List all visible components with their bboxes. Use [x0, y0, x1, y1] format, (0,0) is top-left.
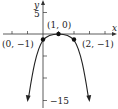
point-2-neg1	[72, 37, 76, 41]
y-tick-label-neg15: −15	[50, 96, 69, 106]
point-label-0-neg1: (0, −1)	[2, 39, 34, 49]
curve-right-arrow-icon	[86, 95, 91, 102]
x-axis-label: x	[112, 23, 117, 33]
point-label-2-neg1: (2, −1)	[82, 39, 114, 49]
point-0-neg1	[41, 37, 45, 41]
axes	[3, 2, 114, 108]
curve	[29, 34, 88, 96]
point-label-1-0: (1, 0)	[47, 20, 71, 30]
point-1-0	[56, 32, 60, 36]
curve-left-arrow-icon	[26, 95, 31, 102]
y-tick-label-5: 5	[34, 9, 40, 19]
y-axis-arrow-icon	[41, 0, 45, 5]
graph: y x 5 −15 (1, 0) (0, −1) (2, −1)	[0, 0, 118, 109]
